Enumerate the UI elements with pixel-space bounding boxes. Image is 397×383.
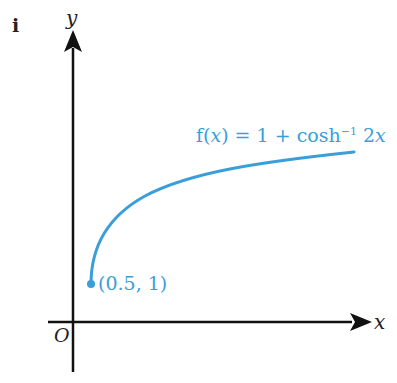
x-axis-arrow-icon <box>350 313 372 331</box>
part-label: i <box>12 14 19 36</box>
function-label-suffix-var: x <box>375 124 386 146</box>
origin-label: O <box>54 324 70 346</box>
function-label-prefix: f( <box>196 124 210 146</box>
function-label-sup: −1 <box>341 125 357 138</box>
y-axis-label: y <box>66 6 77 30</box>
graph-figure: i y x O f(x) = 1 + cosh−1 2x (0.5, 1) <box>0 0 397 383</box>
function-label: f(x) = 1 + cosh−1 2x <box>196 124 386 146</box>
endpoint-marker <box>87 280 95 288</box>
function-label-var: x <box>210 124 221 146</box>
function-label-mid: ) = 1 + cosh <box>221 124 341 146</box>
function-curve <box>91 152 354 284</box>
point-label: (0.5, 1) <box>98 272 167 294</box>
x-axis-label: x <box>374 310 385 334</box>
function-label-suffix: 2 <box>357 124 375 146</box>
